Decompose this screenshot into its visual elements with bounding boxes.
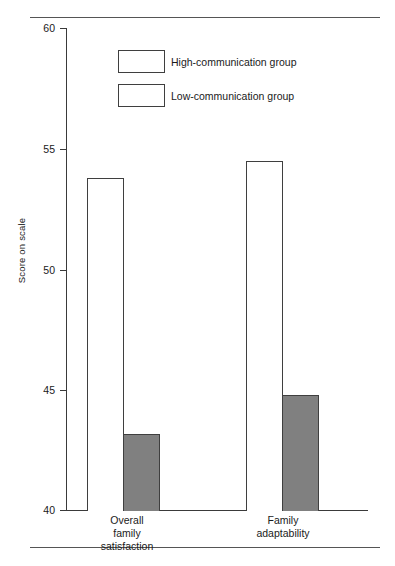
y-tick-50 <box>60 270 67 271</box>
category-label-line-1: Overall <box>67 514 187 527</box>
bar-overall-family-satisfaction-low-communication <box>123 434 160 511</box>
legend-swatch-low-communication <box>118 84 165 107</box>
category-label-family-adaptability: Family adaptability <box>223 514 343 540</box>
category-label-line-2: family <box>67 527 187 540</box>
y-tick-45 <box>60 390 67 391</box>
figure-bar-chart: Score on scale 60 55 50 45 40 High-commu… <box>0 0 395 566</box>
y-tick-label-55: 55 <box>29 144 55 154</box>
bar-overall-family-satisfaction-high-communication <box>87 178 124 511</box>
bar-family-adaptability-high-communication <box>246 161 283 511</box>
y-tick-55 <box>60 149 67 150</box>
bar-family-adaptability-low-communication <box>282 395 319 511</box>
y-tick-label-40: 40 <box>29 505 55 515</box>
y-tick-60 <box>60 28 67 29</box>
legend-item-low-communication: Low-communication group <box>118 84 294 107</box>
legend-swatch-high-communication <box>118 50 165 73</box>
category-label-overall-family-satisfaction: Overall family satisfaction <box>67 514 187 553</box>
category-label-line-1: Family <box>223 514 343 527</box>
y-axis-title: Score on scale <box>16 206 27 296</box>
category-label-line-2: adaptability <box>223 527 343 540</box>
top-rule <box>30 17 380 18</box>
legend-label-high-communication: High-communication group <box>171 56 296 68</box>
category-label-line-3: satisfaction <box>67 540 187 553</box>
y-tick-40 <box>60 510 67 511</box>
legend-item-high-communication: High-communication group <box>118 50 296 73</box>
y-tick-label-60: 60 <box>29 23 55 33</box>
y-tick-label-45: 45 <box>29 385 55 395</box>
legend-label-low-communication: Low-communication group <box>171 90 294 102</box>
y-tick-label-50: 50 <box>29 265 55 275</box>
